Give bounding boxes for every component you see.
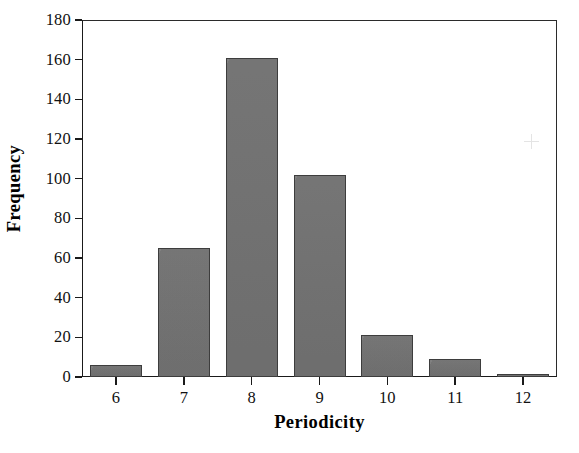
y-tick-mark — [75, 59, 82, 61]
y-tick-label: 140 — [46, 88, 71, 110]
x-tick-label: 9 — [300, 388, 340, 408]
x-tick-mark — [251, 377, 253, 385]
bars-layer — [82, 20, 557, 377]
y-tick-label: 60 — [54, 247, 71, 269]
y-tick-mark — [75, 19, 82, 21]
x-tick-mark — [387, 377, 389, 385]
y-tick-mark — [75, 218, 82, 220]
x-tick-label: 7 — [164, 388, 204, 408]
x-tick-label: 11 — [435, 388, 475, 408]
y-tick-label: 0 — [63, 366, 71, 388]
y-axis-title: Frequency — [4, 99, 25, 279]
y-tick-label: 80 — [54, 207, 71, 229]
x-tick-label: 6 — [96, 388, 136, 408]
bar — [429, 359, 481, 377]
y-tick-label: 20 — [54, 326, 71, 348]
y-tick-label: 160 — [46, 49, 71, 71]
x-tick-label: 8 — [232, 388, 272, 408]
y-tick-mark — [75, 257, 82, 259]
x-tick-mark — [319, 377, 321, 385]
bar — [158, 248, 210, 377]
y-tick-mark — [75, 337, 82, 339]
x-axis: 6789101112 — [82, 377, 557, 417]
y-tick-mark — [75, 376, 82, 378]
bar — [294, 175, 346, 377]
y-tick-mark — [75, 138, 82, 140]
x-tick-mark — [183, 377, 185, 385]
y-tick-mark — [75, 297, 82, 299]
x-tick-label: 12 — [503, 388, 543, 408]
x-tick-mark — [522, 377, 524, 385]
x-tick-mark — [454, 377, 456, 385]
x-tick-label: 10 — [367, 388, 407, 408]
bar — [361, 335, 413, 377]
x-axis-title: Periodicity — [82, 412, 557, 433]
bar — [90, 365, 142, 377]
y-tick-label: 120 — [46, 128, 71, 150]
y-tick-mark — [75, 178, 82, 180]
bar-chart-figure: 180160140120100806040200 Frequency 67891… — [0, 0, 579, 453]
x-tick-mark — [115, 377, 117, 385]
bar — [226, 58, 278, 377]
y-tick-label: 180 — [46, 9, 71, 31]
y-tick-label: 100 — [46, 168, 71, 190]
y-tick-label: 40 — [54, 287, 71, 309]
y-tick-mark — [75, 99, 82, 101]
scan-artifact-mark — [524, 134, 539, 149]
